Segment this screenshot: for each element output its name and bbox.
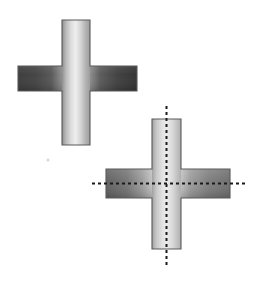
cross-shapes-figure (0, 0, 257, 284)
upper-cross-vertical-bar (62, 20, 90, 145)
speck-mark-icon (46, 158, 49, 161)
diagram-canvas (0, 0, 257, 284)
lower-right-cross (92, 106, 247, 268)
upper-left-cross (18, 20, 137, 145)
